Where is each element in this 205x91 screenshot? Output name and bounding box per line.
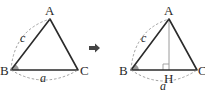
vertex-c-label: C [198,63,205,78]
side-c-label: c [20,31,26,45]
left-triangle: A B C c a [0,3,89,85]
right-arrow-icon [89,44,100,53]
vertex-c-label: C [80,63,89,78]
vertex-a-label: A [45,3,55,18]
vertex-a-label: A [164,3,174,18]
triangle-diagram: A B C c a A B C H c a [0,0,205,91]
vertex-b-label: B [0,63,9,78]
vertex-b-label: B [119,63,128,78]
side-a-label: a [40,71,46,85]
side-c-label: c [141,31,147,45]
right-angle-marker [163,64,169,70]
right-triangle: A B C H c a [119,3,205,91]
side-a-label: a [160,79,166,91]
